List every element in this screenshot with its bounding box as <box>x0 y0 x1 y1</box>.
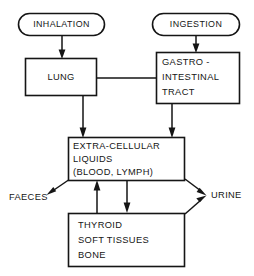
outflow-urine: URINE <box>211 190 242 200</box>
ingestion-label: INGESTION <box>170 19 222 29</box>
connector-extracellular-to-urine <box>185 179 207 196</box>
gi-tract-label-line-1: GASTRO - <box>162 57 210 67</box>
node-gastro-intestinal-tract[interactable]: GASTRO - INTESTINAL TRACT <box>157 53 240 104</box>
tissues-label-line-3: BONE <box>78 250 106 260</box>
lung-label: LUNG <box>47 72 74 82</box>
node-inhalation[interactable]: INHALATION <box>19 14 105 36</box>
connector-ingestion-to-gi-tract <box>193 36 200 53</box>
tissues-label-line-1: THYROID <box>78 220 122 230</box>
connector-to-faeces <box>47 179 71 195</box>
connector-gi-tract-to-extracellular <box>169 103 176 138</box>
connector-extracellular-to-tissues <box>124 181 131 213</box>
flow-diagram: INHALATION INGESTION LUNG GASTRO - INTES… <box>0 0 254 276</box>
extracellular-label-line-3: (BLOOD, LYMPH) <box>73 167 153 177</box>
node-extracellular-liquids[interactable]: EXTRA-CELLULAR LIQUIDS (BLOOD, LYMPH) <box>69 138 185 181</box>
extracellular-label-line-1: EXTRA-CELLULAR <box>73 141 160 151</box>
faeces-label: FAECES <box>9 192 48 202</box>
connector-lung-to-extracellular <box>80 95 87 138</box>
node-ingestion[interactable]: INGESTION <box>153 14 240 36</box>
urine-label: URINE <box>211 190 242 200</box>
connector-tissues-to-urine <box>185 196 207 215</box>
gi-tract-label-line-2: INTESTINAL <box>162 72 219 82</box>
connector-inhalation-to-lung <box>59 36 66 59</box>
tissues-label-line-2: SOFT TISSUES <box>78 235 149 245</box>
gi-tract-label-line-3: TRACT <box>162 87 195 97</box>
node-tissues[interactable]: THYROID SOFT TISSUES BONE <box>69 214 185 267</box>
extracellular-label-line-2: LIQUIDS <box>73 154 113 164</box>
node-lung[interactable]: LUNG <box>26 59 97 96</box>
inhalation-label: INHALATION <box>33 19 90 29</box>
outflow-faeces: FAECES <box>9 192 48 202</box>
connector-tissues-to-extracellular <box>94 180 101 213</box>
flow-diagram-canvas: INHALATION INGESTION LUNG GASTRO - INTES… <box>0 0 254 276</box>
